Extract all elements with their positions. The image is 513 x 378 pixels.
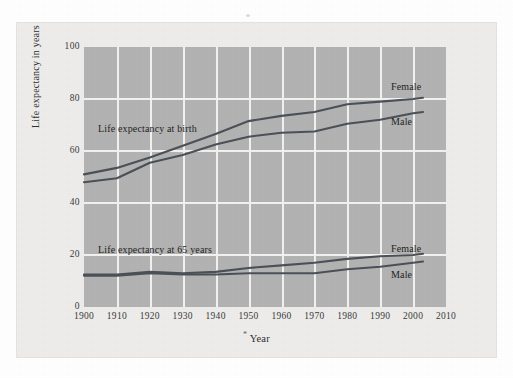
series-label-birth-male: Male — [391, 116, 412, 127]
x-axis-ticks: 1900 1910 1920 1930 1940 1950 1960 1970 … — [84, 311, 464, 331]
y-tick-80: 80 — [46, 93, 80, 103]
scanned-page: Life expectancy at birth Life expectancy… — [0, 0, 513, 378]
plot-area: Life expectancy at birth Life expectancy… — [84, 47, 446, 307]
series-label-65-female: Female — [391, 243, 421, 254]
x-axis-title-text: Year — [250, 333, 270, 344]
annotation-life-expectancy-at-65: Life expectancy at 65 years — [98, 244, 212, 255]
y-tick-100: 100 — [46, 41, 80, 51]
y-tick-60: 60 — [46, 145, 80, 155]
series-label-birth-female: Female — [391, 81, 421, 92]
y-tick-40: 40 — [46, 197, 80, 207]
annotation-life-expectancy-at-birth: Life expectancy at birth — [98, 123, 197, 134]
y-axis-title: Life expectancy in years — [30, 25, 41, 128]
series-label-65-male: Male — [391, 269, 412, 280]
x-axis-title-marker: * — [243, 330, 247, 339]
line-65-female — [84, 254, 423, 275]
x-axis-title: * Year — [0, 330, 513, 344]
y-tick-20: 20 — [46, 249, 80, 259]
y-tick-0: 0 — [46, 301, 80, 311]
y-axis-ticks: 100 80 60 40 20 0 — [44, 47, 80, 307]
line-chart-figure: Life expectancy at birth Life expectancy… — [0, 0, 513, 378]
x-tick-2010: 2010 — [426, 311, 466, 321]
